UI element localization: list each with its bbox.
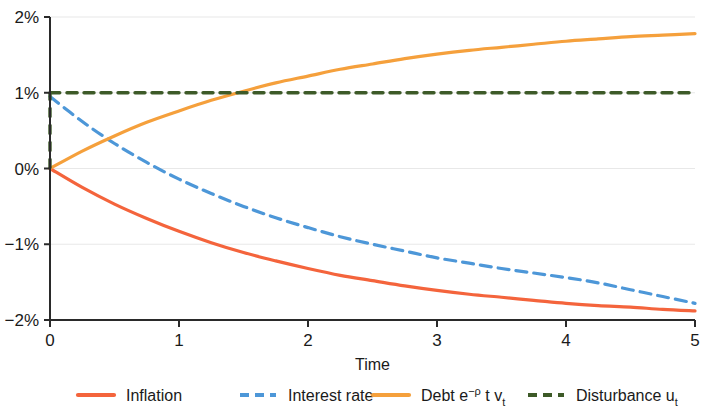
y-axis-tick-label: 1% (14, 84, 39, 103)
y-axis-tick-label: −1% (5, 235, 40, 254)
x-axis-tick-label: 2 (303, 331, 312, 350)
y-axis-tick-label: 2% (14, 8, 39, 27)
x-axis-tick-label: 4 (561, 331, 570, 350)
legend-label-text: Debt e−ρ t vt (421, 385, 505, 408)
chart-figure: 2%1%0%−1%−2%012345 Time InflationInteres… (0, 0, 702, 415)
series-line-interest-rate (50, 97, 695, 304)
x-axis-title-text: Time (355, 356, 390, 373)
series-layer (50, 34, 695, 311)
x-axis-tick-label: 5 (690, 331, 699, 350)
legend-label-text: Interest rate (288, 387, 373, 404)
x-axis-tick-label: 3 (432, 331, 441, 350)
x-axis-tick-label: 0 (45, 331, 54, 350)
series-line-inflation (50, 169, 695, 311)
legend-label-text: Inflation (126, 387, 182, 404)
series-line-debt (50, 34, 695, 169)
legend-item-disturbance[interactable]: Disturbance ut (528, 387, 678, 408)
chart-legend: InflationInterest rateDebt e−ρ t vtDistu… (78, 385, 678, 408)
y-axis-tick-label: 0% (14, 160, 39, 179)
line-chart-svg: 2%1%0%−1%−2%012345 Time InflationInteres… (0, 0, 702, 415)
axis-tick-labels: 2%1%0%−1%−2%012345 (5, 8, 700, 350)
x-axis-title: Time (355, 356, 390, 373)
legend-label-text: Disturbance ut (576, 387, 678, 408)
legend-item-debt[interactable]: Debt e−ρ t vt (373, 385, 505, 408)
x-axis-tick-label: 1 (174, 331, 183, 350)
legend-item-interest-rate[interactable]: Interest rate (240, 387, 373, 404)
legend-item-inflation[interactable]: Inflation (78, 387, 182, 404)
y-axis-tick-label: −2% (5, 311, 40, 330)
